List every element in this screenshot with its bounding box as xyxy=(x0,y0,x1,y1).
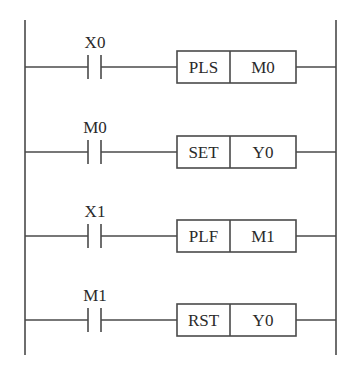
operand-label: Y0 xyxy=(253,143,274,162)
rung: X1PLFM1 xyxy=(25,202,336,252)
rung: M0SETY0 xyxy=(25,118,336,168)
instruction-label: PLF xyxy=(189,227,218,246)
contact-label: X1 xyxy=(85,202,106,221)
contact-label: X0 xyxy=(85,33,106,52)
operand-label: M1 xyxy=(251,227,275,246)
no-contact-icon xyxy=(88,140,101,164)
no-contact-icon xyxy=(88,308,101,332)
operand-label: M0 xyxy=(251,58,275,77)
instruction-box: PLSM0 xyxy=(177,51,296,83)
instruction-label: PLS xyxy=(189,58,218,77)
contact-label: M1 xyxy=(83,286,107,305)
operand-label: Y0 xyxy=(253,311,274,330)
contact-label: M0 xyxy=(83,118,107,137)
instruction-box: RSTY0 xyxy=(177,304,296,336)
no-contact-icon xyxy=(88,55,101,79)
rung: M1RSTY0 xyxy=(25,286,336,336)
instruction-label: RST xyxy=(188,311,220,330)
rung: X0PLSM0 xyxy=(25,33,336,83)
instruction-box: PLFM1 xyxy=(177,220,296,252)
instruction-label: SET xyxy=(188,143,219,162)
instruction-box: SETY0 xyxy=(177,136,296,168)
ladder-diagram: X0PLSM0M0SETY0X1PLFM1M1RSTY0 xyxy=(0,0,355,368)
no-contact-icon xyxy=(88,224,101,248)
